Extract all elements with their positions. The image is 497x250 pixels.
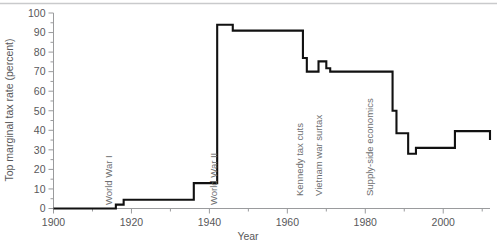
- annotation-label: Kennedy tax cuts: [294, 123, 305, 196]
- y-tick-label: 50: [34, 105, 46, 117]
- annotation-label: Supply-side economics: [364, 98, 375, 196]
- y-tick-label: 10: [34, 183, 46, 195]
- chart-container: 0102030405060708090100 19001920194019601…: [0, 0, 497, 250]
- y-tick-label: 70: [34, 65, 46, 77]
- y-axis-title: Top marginal tax rate (percent): [3, 39, 15, 182]
- x-tick-label: 1980: [354, 216, 378, 228]
- y-tick-label: 30: [34, 144, 46, 156]
- x-tick-label: 2000: [432, 216, 456, 228]
- x-tick-label: 1920: [120, 216, 144, 228]
- y-tick-label: 20: [34, 163, 46, 175]
- x-tick-label: 1960: [276, 216, 300, 228]
- y-tick-label: 0: [40, 202, 46, 214]
- tax-rate-step-chart: 0102030405060708090100 19001920194019601…: [0, 0, 497, 250]
- chart-background: [0, 0, 497, 250]
- y-tick-label: 90: [34, 26, 46, 38]
- y-tick-label: 60: [34, 85, 46, 97]
- y-tick-label: 100: [28, 7, 46, 19]
- annotation-label: World War II: [208, 153, 219, 205]
- x-tick-label: 1900: [42, 216, 66, 228]
- x-tick-label: 1940: [198, 216, 222, 228]
- annotation-label: World War I: [103, 155, 114, 205]
- y-tick-label: 80: [34, 46, 46, 58]
- y-tick-label: 40: [34, 124, 46, 136]
- annotation-label: Vietnam war surtax: [313, 115, 324, 196]
- x-axis-title: Year: [237, 230, 259, 242]
